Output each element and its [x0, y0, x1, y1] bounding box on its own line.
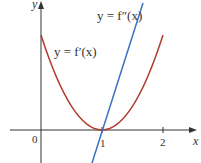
- tick-label-1: 1: [100, 137, 106, 149]
- y-axis-label: y: [32, 0, 37, 12]
- x-axis-arrow-icon: [189, 127, 197, 133]
- tick-label-2: 2: [160, 136, 166, 148]
- x-axis-label: x: [193, 134, 198, 149]
- fprime-label: y = f′(x): [54, 44, 97, 60]
- tick-label-0: 0: [32, 133, 38, 145]
- fdoubleprime-label: y = f″(x): [97, 8, 142, 24]
- y-axis-arrow-icon: [38, 1, 44, 9]
